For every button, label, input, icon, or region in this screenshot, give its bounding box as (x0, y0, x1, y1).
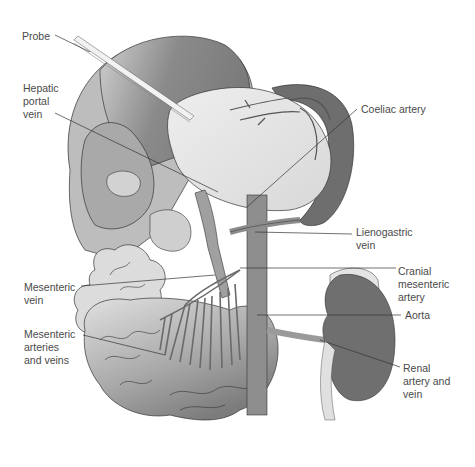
label-lienogastric-vein: Lienogastric vein (356, 226, 413, 252)
label-mesenteric-vein: Mesenteric vein (24, 281, 75, 307)
anatomical-diagram: Probe Hepatic portal vein Coeliac artery… (0, 0, 475, 467)
label-cranial-mesenteric-artery: Cranial mesenteric artery (398, 265, 449, 304)
label-hepatic-portal-vein: Hepatic portal vein (23, 82, 59, 121)
label-renal-artery-and-vein: Renal artery and vein (403, 362, 450, 401)
label-coeliac-artery: Coeliac artery (361, 103, 426, 116)
label-mesenteric-arteries-and-veins: Mesenteric arteries and veins (24, 328, 75, 367)
label-aorta: Aorta (405, 309, 430, 322)
label-probe: Probe (22, 30, 50, 43)
duodenum (150, 210, 191, 251)
